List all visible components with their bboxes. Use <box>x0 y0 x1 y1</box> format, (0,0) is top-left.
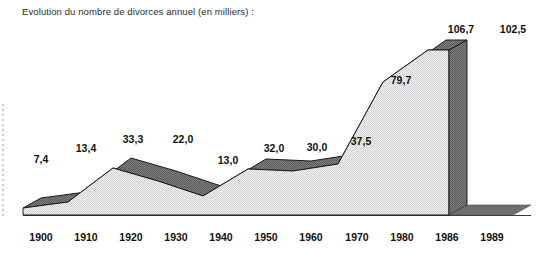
x-axis-label-1900: 1900 <box>29 231 53 243</box>
value-label-1930: 22,0 <box>173 133 194 145</box>
value-label-1950: 32,0 <box>264 142 285 154</box>
chart-page: Evolution du nombre de divorces annuel (… <box>0 0 546 266</box>
x-axis-label-1940: 1940 <box>209 231 233 243</box>
x-axis-label-1980: 1980 <box>390 231 414 243</box>
ribbon-right-side-face <box>449 40 467 215</box>
x-axis-label-1920: 1920 <box>119 231 143 243</box>
value-label-1986: 106,7 <box>448 23 474 35</box>
x-axis-label-1930: 1930 <box>164 231 188 243</box>
x-axis-label-1970: 1970 <box>345 231 369 243</box>
x-axis-label-1910: 1910 <box>74 231 98 243</box>
ribbon-front-face <box>23 50 449 215</box>
value-label-1980: 79,7 <box>391 74 412 86</box>
value-label-1940: 13,0 <box>218 154 239 166</box>
x-axis-label-1950: 1950 <box>254 231 278 243</box>
value-label-1910: 13,4 <box>76 142 97 154</box>
value-label-1960: 30,0 <box>307 141 328 153</box>
x-axis-label-1986: 1986 <box>435 231 459 243</box>
value-label-1900: 7,4 <box>34 153 49 165</box>
value-label-1920: 33,3 <box>123 133 144 145</box>
value-label-1989: 102,5 <box>500 23 526 35</box>
x-axis-label-1989: 1989 <box>480 231 504 243</box>
divorce-area-chart: 7,4 13,4 33,3 22,0 13,0 32,0 30,0 37,5 7… <box>0 0 546 266</box>
value-label-1970: 37,5 <box>351 135 372 147</box>
x-axis-label-1960: 1960 <box>299 231 323 243</box>
